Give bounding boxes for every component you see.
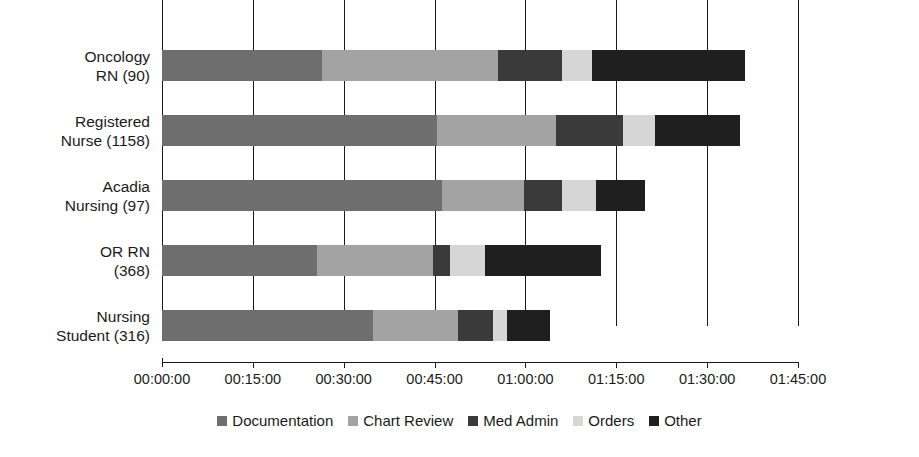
bar-row [162, 101, 798, 166]
bar-segment-orders[interactable] [562, 180, 596, 211]
legend-label: Med Admin [483, 412, 558, 429]
legend-label: Other [664, 412, 702, 429]
bar-segment-med-admin[interactable] [524, 180, 562, 211]
stacked-bar[interactable] [162, 50, 798, 81]
legend-item[interactable]: Documentation [217, 412, 333, 429]
bar-segment-orders[interactable] [623, 115, 655, 146]
y-axis-label: OncologyRN (90) [0, 47, 150, 85]
tick-004500 [435, 362, 436, 368]
y-axis-label-line: Nursing [0, 307, 150, 326]
bar-segment-documentation[interactable] [162, 115, 437, 146]
bar-segment-orders[interactable] [562, 50, 592, 81]
bar-segment-documentation[interactable] [162, 180, 442, 211]
y-axis-label-line: RN (90) [0, 66, 150, 85]
bar-segment-med-admin[interactable] [458, 310, 494, 341]
y-axis-label-line: Registered [0, 112, 150, 131]
plot-area [162, 36, 798, 362]
legend-swatch-icon [348, 416, 358, 426]
legend-item[interactable]: Orders [573, 412, 634, 429]
bar-segment-other[interactable] [655, 115, 740, 146]
bar-row [162, 166, 798, 231]
tick-011500 [616, 362, 617, 368]
x-axis-tick-label: 01:45:00 [750, 371, 846, 387]
tick-010000 [525, 362, 526, 368]
legend-swatch-icon [217, 416, 227, 426]
x-axis-tick-label: 00:15:00 [205, 371, 301, 387]
legend-item[interactable]: Other [649, 412, 702, 429]
legend-label: Orders [588, 412, 634, 429]
y-axis-label-line: Acadia [0, 177, 150, 196]
y-axis-label: RegisteredNurse (1158) [0, 112, 150, 150]
tick-014500 [798, 362, 799, 368]
bar-segment-documentation[interactable] [162, 245, 317, 276]
bar-segment-chart-review[interactable] [437, 115, 556, 146]
stacked-bar[interactable] [162, 115, 798, 146]
chart-legend: DocumentationChart ReviewMed AdminOrders… [0, 412, 919, 429]
legend-label: Documentation [232, 412, 333, 429]
bar-segment-other[interactable] [596, 180, 645, 211]
bar-row [162, 36, 798, 101]
y-axis-label-line: Nurse (1158) [0, 131, 150, 150]
x-axis-tick-label: 01:15:00 [568, 371, 664, 387]
bar-segment-other[interactable] [592, 50, 745, 81]
bar-row [162, 231, 798, 296]
y-axis-label-line: Student (316) [0, 326, 150, 345]
bar-segment-med-admin[interactable] [556, 115, 623, 146]
bar-segment-orders[interactable] [450, 245, 485, 276]
y-axis-label-line: Nursing (97) [0, 196, 150, 215]
legend-label: Chart Review [363, 412, 453, 429]
bar-segment-documentation[interactable] [162, 50, 322, 81]
x-axis-tick-label: 00:45:00 [387, 371, 483, 387]
x-axis-tick-label: 00:00:00 [114, 371, 210, 387]
y-axis-label: OR RN(368) [0, 242, 150, 280]
bar-segment-med-admin[interactable] [433, 245, 450, 276]
stacked-bar-chart: OncologyRN (90)RegisteredNurse (1158)Aca… [0, 0, 919, 457]
tick-003000 [344, 362, 345, 368]
stacked-bar[interactable] [162, 310, 798, 341]
tick-001500 [253, 362, 254, 368]
x-axis-line [162, 362, 799, 363]
bar-segment-documentation[interactable] [162, 310, 373, 341]
stacked-bar[interactable] [162, 245, 798, 276]
bar-segment-med-admin[interactable] [498, 50, 562, 81]
legend-item[interactable]: Chart Review [348, 412, 453, 429]
x-axis-tick-label: 01:30:00 [659, 371, 755, 387]
y-axis-label: AcadiaNursing (97) [0, 177, 150, 215]
y-axis-label-line: Oncology [0, 47, 150, 66]
bar-segment-chart-review[interactable] [442, 180, 524, 211]
bar-segment-other[interactable] [507, 310, 550, 341]
bar-segment-chart-review[interactable] [322, 50, 498, 81]
stacked-bar[interactable] [162, 180, 798, 211]
legend-swatch-icon [649, 416, 659, 426]
bar-segment-chart-review[interactable] [373, 310, 458, 341]
tick-013000 [707, 362, 708, 368]
y-axis-label: NursingStudent (316) [0, 307, 150, 345]
y-axis-label-line: OR RN [0, 242, 150, 261]
gridline-014500 [798, 0, 799, 326]
bar-segment-chart-review[interactable] [317, 245, 433, 276]
legend-swatch-icon [573, 416, 583, 426]
bar-row [162, 296, 798, 361]
x-axis-tick-label: 00:30:00 [296, 371, 392, 387]
x-axis-tick-label: 01:00:00 [477, 371, 573, 387]
y-axis-label-line: (368) [0, 261, 150, 280]
bar-segment-orders[interactable] [493, 310, 507, 341]
legend-swatch-icon [468, 416, 478, 426]
bar-segment-other[interactable] [485, 245, 601, 276]
legend-item[interactable]: Med Admin [468, 412, 558, 429]
